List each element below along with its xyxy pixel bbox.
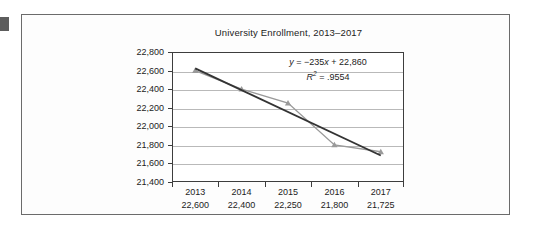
x-axis-year-label: 2017 [358,186,404,199]
x-axis-column: 201721,725 [358,186,404,212]
x-axis-column: 201621,800 [311,186,357,212]
x-axis-column: 201322,600 [172,186,218,212]
x-axis-value-label: 21,725 [358,199,404,212]
x-axis-column: 201522,250 [265,186,311,212]
x-axis-value-label: 22,400 [218,199,264,212]
x-axis-column: 201422,400 [218,186,264,212]
x-axis-year-label: 2015 [265,186,311,199]
x-axis-year-label: 2014 [218,186,264,199]
regression-annotation: y = −235x + 22,860 R2 = .9554 [258,56,398,83]
x-axis-year-label: 2013 [172,186,218,199]
x-axis-value-label: 21,800 [311,199,357,212]
regression-equation: y = −235x + 22,860 [258,56,398,68]
r-squared-value: R2 = .9554 [258,68,398,83]
r-value: = .9554 [317,72,350,82]
x-axis-value-label: 22,600 [172,199,218,212]
x-axis-year-label: 2016 [311,186,357,199]
equation-body: = −235x + 22,860 [294,57,367,67]
x-axis-data-table: 201322,600201422,400201522,250201621,800… [172,186,404,212]
x-axis-value-label: 22,250 [265,199,311,212]
